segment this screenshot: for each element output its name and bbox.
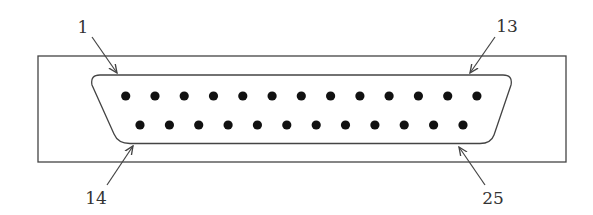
pin-13-label: 13 <box>496 16 518 36</box>
pin-22 <box>370 120 379 129</box>
pin-13 <box>472 91 481 100</box>
pin-14-arrow <box>107 146 133 185</box>
pin-20 <box>312 120 321 129</box>
pin-1 <box>121 91 130 100</box>
pin-14 <box>135 120 144 129</box>
pin-11 <box>414 91 423 100</box>
pin-7 <box>297 91 306 100</box>
pin-9 <box>355 91 364 100</box>
pin-15 <box>165 120 174 129</box>
pin-3 <box>180 91 189 100</box>
pin-13-arrow <box>470 37 495 73</box>
pin-4 <box>209 91 218 100</box>
pin-14-label: 14 <box>85 188 107 208</box>
pin-10 <box>385 91 394 100</box>
pin-23 <box>400 120 409 129</box>
pin-16 <box>194 120 203 129</box>
pin-25-arrow <box>459 147 485 185</box>
pin-17 <box>224 120 233 129</box>
pin-6 <box>268 91 277 100</box>
pin-24 <box>429 120 438 129</box>
db25-connector-diagram: 1 13 14 25 <box>0 0 593 215</box>
connector-shell <box>92 75 512 144</box>
pin-5 <box>238 91 247 100</box>
pin-19 <box>282 120 291 129</box>
pin-21 <box>341 120 350 129</box>
pin-18 <box>253 120 262 129</box>
pin-2 <box>150 91 159 100</box>
pin-1-arrow <box>92 37 117 73</box>
pin-12 <box>443 91 452 100</box>
pin-25 <box>458 120 467 129</box>
pin-1-label: 1 <box>78 17 89 37</box>
pin-8 <box>326 91 335 100</box>
pin-25-label: 25 <box>482 188 504 208</box>
